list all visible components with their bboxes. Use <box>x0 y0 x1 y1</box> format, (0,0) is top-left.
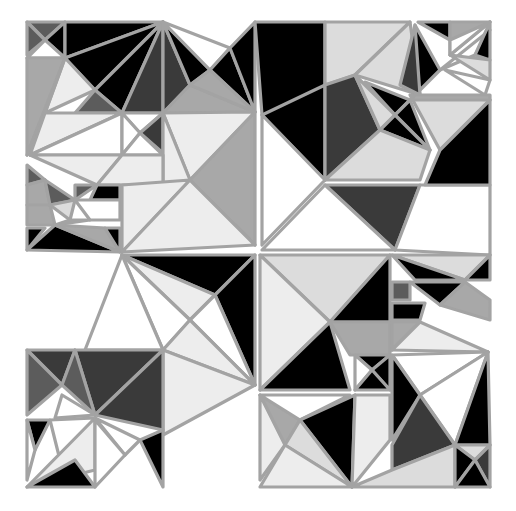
tile-35 <box>27 205 55 225</box>
tile-91 <box>410 95 490 100</box>
tile-108 <box>392 303 425 320</box>
tile-105 <box>392 282 410 300</box>
tile-34 <box>90 185 120 200</box>
geometric-artwork <box>0 0 516 511</box>
